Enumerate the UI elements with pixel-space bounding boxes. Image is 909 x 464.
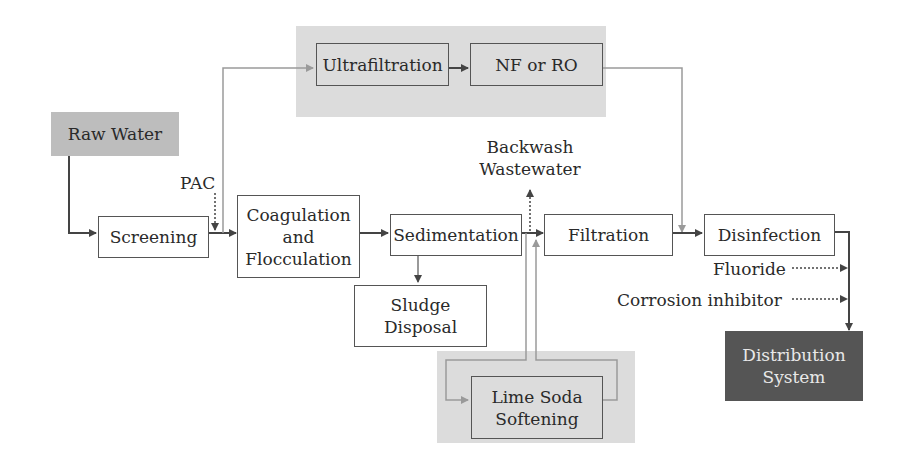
node-sludge-disposal: Sludge Disposal xyxy=(354,285,487,347)
coagulation-label-3: Flocculation xyxy=(245,248,351,270)
backwash-label-1: Backwash xyxy=(470,136,590,158)
node-lime-soda-softening: Lime Soda Softening xyxy=(471,376,603,439)
backwash-wastewater-label: Backwash Wastewater xyxy=(470,136,590,180)
node-filtration: Filtration xyxy=(544,214,673,256)
node-disinfection: Disinfection xyxy=(704,214,835,256)
node-raw-water: Raw Water xyxy=(51,112,179,156)
fluoride-label: Fluoride xyxy=(713,258,786,280)
lime-label-2: Softening xyxy=(495,408,578,430)
raw-water-label: Raw Water xyxy=(68,123,162,145)
distribution-label-1: Distribution xyxy=(742,344,845,366)
coagulation-label-1: Coagulation xyxy=(246,204,350,226)
disinfection-label: Disinfection xyxy=(718,224,822,246)
node-nf-ro: NF or RO xyxy=(470,43,603,86)
pac-label: PAC xyxy=(180,172,215,194)
corrosion-inhibitor-label: Corrosion inhibitor xyxy=(617,289,782,311)
node-ultrafiltration: Ultrafiltration xyxy=(316,43,449,86)
backwash-label-2: Wastewater xyxy=(470,158,590,180)
node-distribution-system: Distribution System xyxy=(725,331,863,401)
sludge-label-1: Sludge xyxy=(391,294,451,316)
sludge-label-2: Disposal xyxy=(384,316,457,338)
node-coagulation-flocculation: Coagulation and Flocculation xyxy=(237,195,360,278)
filtration-label: Filtration xyxy=(568,224,649,246)
lime-label-1: Lime Soda xyxy=(491,386,582,408)
node-screening: Screening xyxy=(98,216,209,258)
sedimentation-label: Sedimentation xyxy=(393,224,519,246)
distribution-label-2: System xyxy=(763,366,826,388)
screening-label: Screening xyxy=(110,226,198,248)
coagulation-label-2: and xyxy=(283,226,315,248)
nf-ro-label: NF or RO xyxy=(495,54,578,76)
ultrafiltration-label: Ultrafiltration xyxy=(322,54,442,76)
node-sedimentation: Sedimentation xyxy=(390,214,522,256)
